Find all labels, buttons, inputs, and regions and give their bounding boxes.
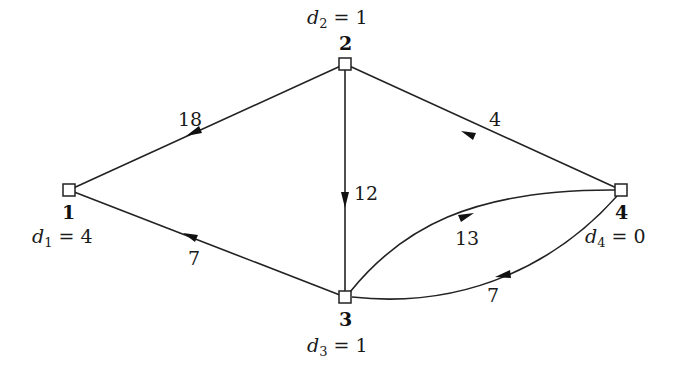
arrow-head-icon xyxy=(183,233,198,242)
node-label-3: 3 xyxy=(339,308,352,330)
node-1: 1 d1= 4 xyxy=(32,184,93,250)
node-3: 3 d3= 1 xyxy=(307,291,368,359)
node-label-2: 2 xyxy=(339,32,352,54)
edge-weight-2-3: 12 xyxy=(354,182,378,204)
node-demand-1: d1= 4 xyxy=(32,225,93,250)
node-2: 2 d2= 1 xyxy=(307,6,368,70)
arrow-head-icon xyxy=(458,213,474,222)
edge-2-1: 18 xyxy=(69,64,345,190)
node-demand-4: d4= 0 xyxy=(585,225,646,250)
edge-weight-3-4: 13 xyxy=(455,227,479,249)
edge-2-3: 12 xyxy=(341,64,378,297)
edge-weight-4-2: 4 xyxy=(489,108,501,130)
node-label-1: 1 xyxy=(62,201,75,223)
node-label-4: 4 xyxy=(615,201,628,223)
node-demand-2: d2= 1 xyxy=(307,6,368,31)
node-demand-3: d3= 1 xyxy=(307,334,368,359)
arrow-head-icon xyxy=(341,192,349,208)
arrow-head-icon xyxy=(461,131,476,140)
edge-weight-4-3: 7 xyxy=(487,284,499,306)
edge-3-1: 7 xyxy=(69,190,345,297)
edge-3-4: 13 xyxy=(350,190,621,292)
node-4: 4 d4= 0 xyxy=(585,184,646,250)
arrow-head-icon xyxy=(495,270,511,278)
edge-weight-3-1: 7 xyxy=(188,247,200,269)
edge-weight-2-1: 18 xyxy=(178,108,202,130)
graph-canvas: 18 12 4 7 13 7 1 d1= 4 2 d2= 1 xyxy=(0,0,690,376)
edge-4-2: 4 xyxy=(345,64,621,190)
